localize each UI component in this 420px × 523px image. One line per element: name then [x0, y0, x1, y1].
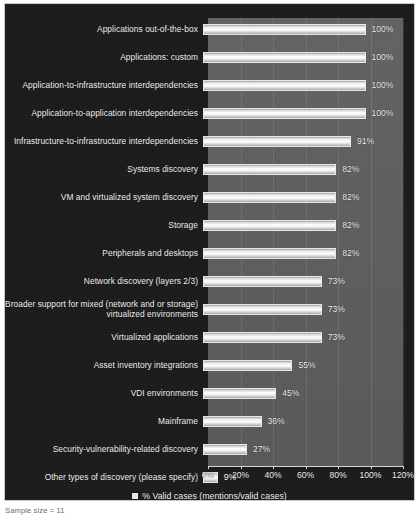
axis-tick-label: 0%	[202, 470, 214, 480]
axis-tick	[403, 466, 404, 469]
bar-row: VDI environments45%	[5, 379, 414, 407]
bar-cell: 45%	[203, 379, 414, 407]
bar-row: Storage82%	[5, 211, 414, 239]
bar-row: Security-vulnerability-related discovery…	[5, 435, 414, 463]
category-label: Mainframe	[5, 416, 203, 426]
legend-swatch-icon	[132, 493, 138, 499]
bar-rows: Applications out-of-the-box100%Applicati…	[5, 15, 414, 491]
category-label: Network discovery (layers 2/3)	[5, 276, 203, 286]
bar[interactable]	[203, 220, 336, 231]
axis-tick-label: 40%	[264, 470, 281, 480]
bar-value-label: 55%	[298, 359, 315, 371]
bar-value-label: 82%	[342, 247, 359, 259]
bar-row: Virtualized applications73%	[5, 323, 414, 351]
axis-tick	[241, 466, 242, 469]
legend-label: % Valid cases (mentions/valid cases)	[142, 491, 287, 501]
category-label: Virtualized applications	[5, 332, 203, 342]
bar-row: Asset inventory integrations55%	[5, 351, 414, 379]
category-label: Applications out-of-the-box	[5, 24, 203, 34]
bar[interactable]	[203, 276, 322, 287]
axis-tick-label: 100%	[360, 470, 382, 480]
category-label: VDI environments	[5, 388, 203, 398]
category-label: Systems discovery	[5, 164, 203, 174]
axis-tick	[273, 466, 274, 469]
category-label: Other types of discovery (please specify…	[5, 472, 203, 482]
chart-legend: % Valid cases (mentions/valid cases)	[5, 491, 414, 501]
bar-cell: 82%	[203, 183, 414, 211]
bar[interactable]	[203, 360, 292, 371]
bar-value-label: 100%	[372, 51, 394, 63]
bar-value-label: 100%	[372, 107, 394, 119]
bar-row: VM and virtualized system discovery82%	[5, 183, 414, 211]
bar-value-label: 73%	[328, 331, 345, 343]
category-label: VM and virtualized system discovery	[5, 192, 203, 202]
bar[interactable]	[203, 416, 262, 427]
bar-cell: 100%	[203, 71, 414, 99]
axis-tick	[306, 466, 307, 469]
bar-cell: 73%	[203, 295, 414, 323]
bar[interactable]	[203, 192, 336, 203]
category-label: Application-to-infrastructure interdepen…	[5, 80, 203, 90]
bar-row: Application-to-application interdependen…	[5, 99, 414, 127]
bar[interactable]	[203, 332, 322, 343]
bar[interactable]	[203, 136, 351, 147]
bar-value-label: 100%	[372, 79, 394, 91]
bar-row: Peripherals and desktops82%	[5, 239, 414, 267]
bar-row: Applications out-of-the-box100%	[5, 15, 414, 43]
bar-value-label: 82%	[342, 191, 359, 203]
bar-cell: 73%	[203, 267, 414, 295]
bar[interactable]	[203, 444, 247, 455]
bar-cell: 36%	[203, 407, 414, 435]
bar-cell: 82%	[203, 211, 414, 239]
bar-value-label: 73%	[328, 303, 345, 315]
axis-tick	[371, 466, 372, 469]
category-label: Peripherals and desktops	[5, 248, 203, 258]
bar[interactable]	[203, 304, 322, 315]
axis-tick	[208, 466, 209, 469]
bar-value-label: 100%	[372, 23, 394, 35]
bar-cell: 100%	[203, 15, 414, 43]
bar-cell: 100%	[203, 43, 414, 71]
bar[interactable]	[203, 388, 276, 399]
bar-value-label: 91%	[357, 135, 374, 147]
category-label: Asset inventory integrations	[5, 360, 203, 370]
bar-cell: 27%	[203, 435, 414, 463]
axis-tick-label: 60%	[297, 470, 314, 480]
bar-cell: 100%	[203, 99, 414, 127]
bar-value-label: 27%	[253, 443, 270, 455]
bar[interactable]	[203, 52, 366, 63]
category-label: Storage	[5, 220, 203, 230]
bar-cell: 73%	[203, 323, 414, 351]
category-label: Security-vulnerability-related discovery	[5, 444, 203, 454]
bar-cell: 91%	[203, 127, 414, 155]
footnote-text: Sample size = 11	[5, 506, 65, 515]
bar-row: Broader support for mixed (network and o…	[5, 295, 414, 323]
category-label: Broader support for mixed (network and o…	[5, 299, 203, 319]
bar[interactable]	[203, 24, 366, 35]
bar-row: Systems discovery82%	[5, 155, 414, 183]
category-label: Applications: custom	[5, 52, 203, 62]
axis-tick-label: 80%	[329, 470, 346, 480]
bar[interactable]	[203, 80, 366, 91]
bar-value-label: 82%	[342, 163, 359, 175]
bar-value-label: 82%	[342, 219, 359, 231]
axis-tick-label: 120%	[392, 470, 414, 480]
bar[interactable]	[203, 164, 336, 175]
bar-value-label: 36%	[268, 415, 285, 427]
bar-value-label: 73%	[328, 275, 345, 287]
x-axis: 0%20%40%60%80%100%120%	[208, 466, 403, 484]
bar[interactable]	[203, 248, 336, 259]
axis-tick	[338, 466, 339, 469]
bar-row: Network discovery (layers 2/3)73%	[5, 267, 414, 295]
category-label: Infrastructure-to-infrastructure interde…	[5, 136, 203, 146]
bar-cell: 82%	[203, 239, 414, 267]
bar-cell: 55%	[203, 351, 414, 379]
bar-value-label: 45%	[282, 387, 299, 399]
bar-row: Mainframe36%	[5, 407, 414, 435]
category-label: Application-to-application interdependen…	[5, 108, 203, 118]
bar[interactable]	[203, 108, 366, 119]
bar-cell: 82%	[203, 155, 414, 183]
axis-tick-label: 20%	[232, 470, 249, 480]
chart-container: Applications out-of-the-box100%Applicati…	[4, 3, 415, 501]
bar-row: Application-to-infrastructure interdepen…	[5, 71, 414, 99]
